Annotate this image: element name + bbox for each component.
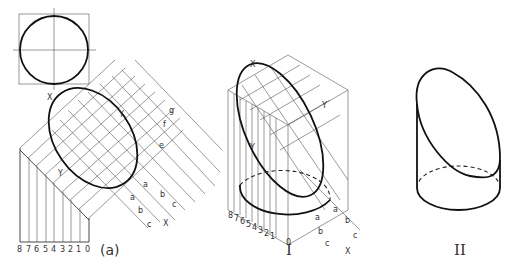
svg-text:4: 4 (51, 245, 56, 254)
svg-text:3: 3 (60, 245, 65, 254)
isometric-construction: X Y Y a a b b c c X 8 7 6 5 4 3 2 1 0 I (219, 50, 360, 259)
figure-canvas: X Y Y a a b b c c e f g X 8 7 6 5 4 3 2 … (0, 0, 515, 273)
dim-c: c (325, 239, 329, 248)
finished-solid: II (417, 68, 500, 259)
panel-2-label: II (454, 241, 466, 259)
axis-y-label: Y (321, 101, 327, 110)
dim-a: a (130, 193, 135, 202)
svg-text:3: 3 (258, 226, 263, 235)
axis-y-label: Y (118, 110, 124, 119)
axis-x-label-2: X (163, 219, 169, 228)
top-view-circle (13, 8, 96, 90)
dim-g: g (169, 106, 174, 115)
dim-b: b (138, 206, 143, 215)
dim-c: c (147, 220, 151, 229)
panel-a-label: (a) (100, 242, 120, 258)
svg-text:8: 8 (228, 211, 233, 220)
dim-a: a (333, 205, 338, 214)
dim-b: b (160, 190, 165, 199)
scale-numbers: 8 7 6 5 4 3 2 1 0 (17, 245, 90, 254)
svg-text:5: 5 (246, 220, 251, 229)
svg-text:1: 1 (270, 232, 275, 241)
dim-f: f (163, 120, 166, 129)
svg-text:6: 6 (34, 245, 39, 254)
dim-a: a (143, 180, 148, 189)
svg-text:2: 2 (264, 229, 269, 238)
dim-b: b (345, 216, 350, 225)
svg-text:0: 0 (85, 245, 90, 254)
dim-b: b (318, 227, 323, 236)
svg-text:7: 7 (234, 214, 239, 223)
svg-text:4: 4 (252, 223, 257, 232)
svg-text:1: 1 (76, 245, 81, 254)
svg-text:7: 7 (26, 245, 31, 254)
axis-x-label: X (47, 93, 53, 102)
svg-text:2: 2 (68, 245, 73, 254)
axis-x-label-2: X (345, 247, 351, 256)
dim-e: e (159, 141, 164, 150)
dim-c: c (353, 231, 357, 240)
dim-c: c (172, 200, 176, 209)
svg-text:6: 6 (240, 217, 245, 226)
panel-1-label: I (286, 241, 292, 259)
front-view: X Y Y a a b b c c e f g X 8 7 6 5 4 3 2 … (17, 60, 222, 258)
dim-a: a (315, 213, 320, 222)
axis-y-label-2: Y (249, 143, 255, 152)
axis-x-label: X (250, 60, 256, 69)
svg-text:8: 8 (17, 245, 22, 254)
axis-y-label-2: Y (57, 169, 63, 178)
svg-text:5: 5 (43, 245, 48, 254)
